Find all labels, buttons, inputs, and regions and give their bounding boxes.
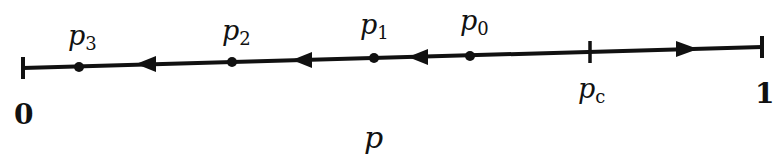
label-one: 1	[755, 77, 774, 110]
arrow-left-icon	[292, 52, 312, 68]
axis-line	[23, 47, 762, 68]
arrow-right-icon	[676, 41, 698, 57]
arrow-left-icon	[136, 56, 156, 72]
label-p1: p1	[360, 9, 389, 43]
label-zero: 0	[14, 98, 33, 131]
label-pc: pc	[578, 73, 605, 107]
flow-diagram: p3 p2 p1 p0 pc 0 1 p	[0, 0, 777, 163]
point-p3	[74, 62, 84, 72]
label-p3: p3	[68, 20, 97, 54]
point-p1	[369, 53, 379, 63]
axis-variable-label: p	[364, 120, 383, 155]
label-p2: p2	[222, 15, 251, 49]
point-p2	[227, 57, 237, 67]
point-p0	[465, 51, 475, 61]
arrow-left-icon	[408, 49, 428, 65]
label-p0: p0	[460, 5, 489, 39]
